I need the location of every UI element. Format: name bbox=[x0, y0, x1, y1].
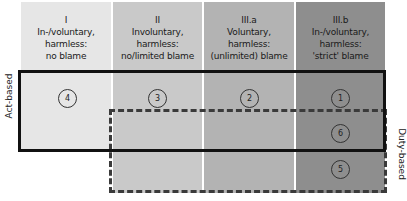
act-based-label: Act-based bbox=[4, 71, 14, 121]
column-IIIb-line: 'strict' blame bbox=[296, 50, 385, 62]
column-II-numeral: II bbox=[113, 14, 202, 26]
column-IIIb-line: In-/voluntary, bbox=[296, 26, 385, 38]
column-I-line: In-/voluntary, bbox=[21, 26, 111, 38]
column-I-line: no blame bbox=[21, 50, 111, 62]
marker-6: 6 bbox=[331, 124, 350, 143]
column-IIIb-header: III.b In-/voluntary, harmless: 'strict' … bbox=[296, 14, 385, 62]
column-IIIa-line: (unlimited) blame bbox=[204, 50, 294, 62]
marker-2: 2 bbox=[240, 89, 259, 108]
column-IIIa-line: harmless: bbox=[204, 38, 294, 50]
column-II-line: Involuntary, bbox=[113, 26, 202, 38]
column-IIIb-numeral: III.b bbox=[296, 14, 385, 26]
column-I-header: I In-/voluntary, harmless: no blame bbox=[21, 14, 111, 62]
marker-5: 5 bbox=[331, 160, 350, 179]
column-II-line: no/limited blame bbox=[113, 50, 202, 62]
marker-3: 3 bbox=[148, 89, 167, 108]
column-IIIa-line: Voluntary, bbox=[204, 26, 294, 38]
column-II-header: II Involuntary, harmless: no/limited bla… bbox=[113, 14, 202, 62]
column-IIIb-line: harmless: bbox=[296, 38, 385, 50]
duty-based-label: Duty-based bbox=[397, 126, 407, 182]
column-IIIa-header: III.a Voluntary, harmless: (unlimited) b… bbox=[204, 14, 294, 62]
column-II-line: harmless: bbox=[113, 38, 202, 50]
column-I-numeral: I bbox=[21, 14, 111, 26]
marker-1: 1 bbox=[331, 89, 350, 108]
column-IIIa-numeral: III.a bbox=[204, 14, 294, 26]
marker-4: 4 bbox=[58, 89, 77, 108]
act-based-region bbox=[18, 70, 386, 152]
column-I-line: harmless: bbox=[21, 38, 111, 50]
